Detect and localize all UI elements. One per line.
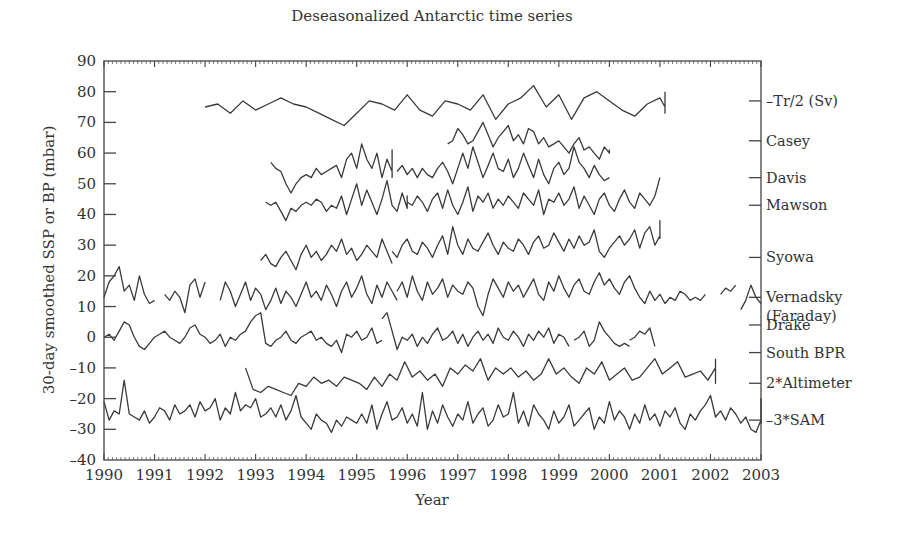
series-label-3: Mawson	[766, 197, 827, 213]
series-line	[630, 328, 655, 346]
y-tick-label: 20	[77, 267, 96, 285]
series-line	[574, 322, 630, 347]
chart: Deseasonalized Antarctic time series Yea…	[0, 0, 900, 540]
y-tick-label: 40	[77, 205, 96, 223]
y-tick-label: 80	[77, 83, 96, 101]
series-label-6: Drake	[766, 317, 811, 333]
plot-border	[104, 61, 761, 460]
y-tick-label: 0	[86, 328, 96, 346]
series-line	[271, 144, 392, 193]
series-line	[220, 276, 397, 310]
series-label-7: South BPR	[766, 345, 846, 361]
series-labels: –Tr/2 (Sv)CaseyDavisMawsonSyowaVernadsky…	[749, 93, 852, 428]
series-line	[721, 285, 736, 294]
series-line	[165, 279, 206, 313]
y-tick-label: 50	[77, 175, 96, 193]
series-line	[104, 380, 761, 432]
series-label-8: 2*Altimeter	[766, 375, 852, 391]
series-line	[397, 147, 609, 184]
series-line	[261, 239, 392, 270]
series-label-0: –Tr/2 (Sv)	[766, 93, 838, 109]
x-tick-label: 1994	[287, 466, 325, 484]
x-tick-label: 1991	[135, 466, 173, 484]
y-tick-label: –10	[69, 359, 96, 377]
axis-ticks: 9080706050403020100–10–20–30–40199019911…	[69, 52, 780, 484]
x-axis-label: Year	[414, 491, 449, 509]
y-tick-label: 30	[77, 236, 96, 254]
y-tick-label: –30	[69, 420, 96, 438]
series-line	[104, 313, 382, 353]
y-tick-label: –20	[69, 390, 96, 408]
x-tick-label: 1995	[338, 466, 376, 484]
series-line	[205, 86, 665, 126]
x-tick-label: 1999	[540, 466, 578, 484]
x-tick-label: 2003	[742, 466, 780, 484]
series-line	[104, 267, 155, 304]
x-tick-label: 1996	[388, 466, 426, 484]
x-tick-label: 1990	[85, 466, 123, 484]
series-line	[246, 359, 716, 396]
series-label-9: –3*SAM	[766, 412, 825, 428]
series-line	[392, 221, 660, 258]
x-tick-label: 2000	[590, 466, 628, 484]
y-tick-label: 10	[77, 298, 96, 316]
y-tick-label: 70	[77, 113, 96, 131]
x-tick-label: 2001	[641, 466, 679, 484]
series-label-2: Davis	[766, 170, 807, 186]
y-axis-label: 30-day smoothed SSP or BP (mbar)	[40, 126, 58, 395]
y-tick-label: 90	[77, 52, 96, 70]
y-tick-label: 60	[77, 144, 96, 162]
x-tick-label: 1998	[489, 466, 527, 484]
series-label-5: Vernadsky	[765, 289, 843, 305]
series-line	[397, 273, 705, 316]
series-line	[382, 313, 569, 350]
series-line	[407, 178, 660, 215]
series-lines	[104, 86, 761, 433]
plot-frame	[104, 61, 761, 460]
x-tick-label: 1992	[186, 466, 224, 484]
x-tick-label: 2002	[691, 466, 729, 484]
x-tick-label: 1993	[237, 466, 275, 484]
series-label-1: Casey	[766, 133, 811, 149]
x-tick-label: 1997	[439, 466, 477, 484]
chart-title: Deseasonalized Antarctic time series	[291, 7, 572, 25]
series-label-4: Syowa	[766, 249, 814, 265]
